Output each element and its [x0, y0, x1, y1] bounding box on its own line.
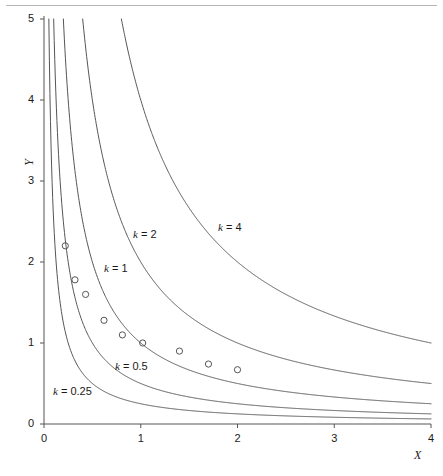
y-tick-label-5: 5 [20, 13, 34, 24]
equals-sign: = [223, 221, 236, 233]
y-axis-title: Y [22, 159, 37, 166]
k-value: 2 [150, 228, 156, 240]
curve-k-4 [121, 19, 431, 343]
scatter-point-6 [176, 348, 182, 354]
scatter-point-4 [119, 332, 125, 338]
k-value: 0.25 [70, 385, 91, 397]
y-tick-label-3: 3 [20, 175, 34, 186]
x-tick-label-2: 2 [231, 433, 245, 444]
k-025-label: k = 0.25 [53, 385, 92, 397]
equals-sign: = [109, 262, 122, 274]
equals-sign: = [58, 385, 71, 397]
k-2-label: k = 2 [133, 228, 157, 240]
x-tick-label-1: 1 [134, 433, 148, 444]
y-tick-label-2: 2 [20, 256, 34, 267]
k-value: 4 [235, 221, 241, 233]
k-4-label: k = 4 [218, 221, 242, 233]
curve-k-0-25 [49, 19, 431, 419]
scatter-point-7 [205, 361, 211, 367]
curve-k-0-5 [54, 19, 431, 414]
x-tick-label-0: 0 [37, 433, 51, 444]
y-tick-label-1: 1 [20, 337, 34, 348]
k-1-label: k = 1 [104, 262, 128, 274]
k-05-label: k = 0.5 [115, 360, 148, 372]
scatter-point-3 [101, 317, 107, 323]
k-value: 0.5 [132, 360, 147, 372]
y-tick-label-4: 4 [20, 94, 34, 105]
y-tick-label-0: 0 [20, 418, 34, 429]
x-tick-label-4: 4 [424, 433, 438, 444]
k-value: 1 [121, 262, 127, 274]
plot-canvas [0, 0, 443, 476]
equals-sign: = [138, 228, 151, 240]
scatter-point-1 [72, 277, 78, 283]
x-tick-label-3: 3 [327, 433, 341, 444]
figure-container: Y X 01234501234 k = 4k = 2k = 1k = 0.5k … [0, 0, 443, 476]
scatter-point-8 [234, 367, 240, 373]
scatter-point-2 [83, 291, 89, 297]
curve-k-2 [83, 19, 431, 384]
equals-sign: = [120, 360, 133, 372]
curve-k-1 [63, 19, 431, 404]
x-axis-title: X [414, 448, 421, 463]
